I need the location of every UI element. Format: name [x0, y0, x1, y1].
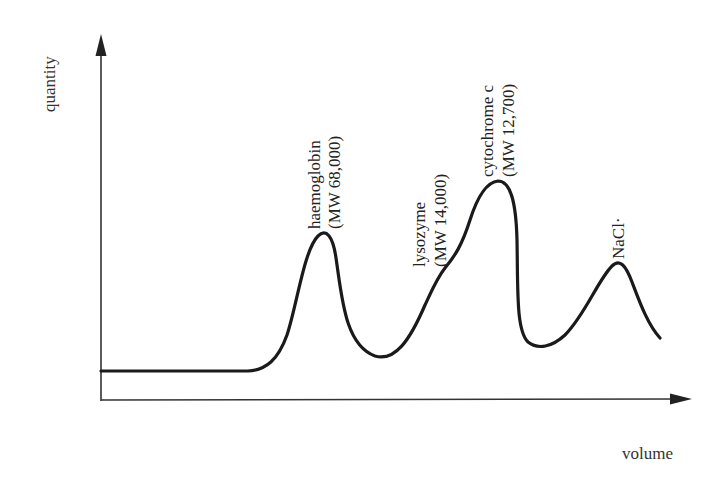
x-axis-line [101, 399, 676, 400]
y-axis [96, 34, 107, 401]
peak-label-haemoglobin: haemoglobin (MW 68,000) [305, 136, 344, 229]
peak-label-lysozyme: lysozyme (MW 14,000) [410, 174, 450, 267]
peak-label-lysozyme-mw: (MW 14,000) [431, 174, 450, 267]
elution-profile-diagram: quantity volume haemoglobin (MW 68,000) … [0, 0, 727, 487]
y-axis-arrow-icon [96, 34, 107, 56]
x-axis [101, 394, 692, 405]
peak-label-cytochrome-name: cytochrome c [478, 85, 497, 177]
y-axis-label: quantity [40, 56, 59, 112]
peak-label-cytochrome-mw: (MW 12,700) [499, 84, 518, 177]
x-axis-label: volume [622, 444, 673, 463]
peak-label-nacl-name: NaCl· [609, 217, 628, 259]
peak-label-cytochrome-c: cytochrome c (MW 12,700) [478, 84, 518, 177]
peak-label-nacl: NaCl· [609, 217, 628, 259]
x-axis-arrow-icon [670, 394, 692, 405]
peak-label-haemoglobin-name: haemoglobin [305, 140, 324, 229]
peak-label-lysozyme-name: lysozyme [410, 202, 429, 267]
elution-curve [101, 181, 660, 371]
peak-label-haemoglobin-mw: (MW 68,000) [325, 136, 344, 229]
